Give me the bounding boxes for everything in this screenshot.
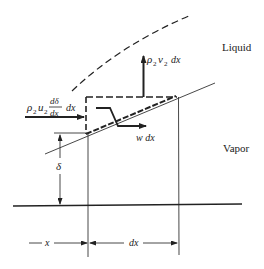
x-label: x [44, 237, 50, 248]
liquid-outer-boundary [72, 15, 191, 91]
svg-text:dδ: dδ [50, 96, 60, 106]
diagram-svg: Liquid Vapor ρ 2 u 2 dδ dx dx ρ 2 v 2 dx… [0, 0, 264, 269]
svg-text:2: 2 [164, 60, 168, 68]
svg-text:2: 2 [33, 108, 37, 116]
svg-text:2: 2 [44, 108, 48, 116]
svg-text:ρ: ρ [26, 101, 32, 113]
liquid-label: Liquid [222, 41, 252, 53]
interface-line [45, 83, 215, 154]
right-vertical-line [179, 97, 180, 255]
svg-text:dx: dx [171, 54, 181, 65]
w-flux-arrow [96, 108, 146, 126]
diagram-canvas: Liquid Vapor ρ 2 u 2 dδ dx dx ρ 2 v 2 dx… [0, 0, 264, 269]
inflow-flux-label: ρ 2 u 2 dδ dx dx [26, 96, 76, 118]
w-flux-label: w dx [136, 132, 155, 143]
svg-text:dx: dx [66, 102, 76, 113]
control-volume-interface-edge [86, 96, 176, 134]
dx-label: dx [129, 237, 139, 248]
wall-line [13, 204, 242, 206]
vapor-label: Vapor [223, 142, 250, 154]
delta-label: δ [56, 160, 62, 172]
vertical-flux-label: ρ 2 v 2 dx [146, 53, 181, 68]
svg-text:ρ: ρ [146, 53, 152, 65]
svg-text:v: v [158, 53, 163, 65]
svg-text:2: 2 [153, 60, 157, 68]
svg-text:dx: dx [50, 108, 59, 118]
